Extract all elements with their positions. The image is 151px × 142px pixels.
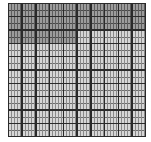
grid-cell-shaded — [37, 4, 49, 16]
grid-cell-shaded — [9, 17, 21, 29]
grid-cell — [92, 84, 104, 96]
grid-cell — [133, 124, 145, 136]
grid-cell — [23, 97, 35, 109]
grid-cell — [105, 97, 117, 109]
grid-cell-shaded — [9, 31, 21, 43]
grid-cell-shaded — [64, 4, 76, 16]
grid-cell — [50, 97, 62, 109]
grid-cell — [119, 111, 131, 123]
grid-cell-shaded — [119, 17, 131, 29]
hundred-grid — [8, 3, 146, 137]
grid-cell-shaded — [133, 17, 145, 29]
grid-cell — [133, 111, 145, 123]
grid-cell — [119, 71, 131, 83]
grid-cell-shaded — [92, 4, 104, 16]
grid-cell — [50, 71, 62, 83]
grid-cell — [78, 111, 90, 123]
grid-cell-shaded — [133, 4, 145, 16]
grid-cell-shaded — [50, 31, 62, 43]
grid-cell — [9, 124, 21, 136]
grid-cell — [64, 97, 76, 109]
grid-cell — [105, 124, 117, 136]
grid-cell-shaded — [105, 17, 117, 29]
grid-cell — [23, 111, 35, 123]
grid-cell — [92, 97, 104, 109]
grid-cell — [50, 57, 62, 69]
grid-cell-shaded — [37, 17, 49, 29]
grid-cell — [64, 44, 76, 56]
grid-cell — [50, 44, 62, 56]
grid-cell-shaded — [64, 31, 76, 43]
grid-cell-shaded — [78, 17, 90, 29]
grid-cell-shaded — [23, 4, 35, 16]
grid-cell — [64, 71, 76, 83]
grid-cell — [105, 44, 117, 56]
grid-cell-shaded — [50, 17, 62, 29]
grid-cell — [50, 84, 62, 96]
grid-cell — [105, 31, 117, 43]
grid-cell — [64, 57, 76, 69]
grid-cell — [64, 84, 76, 96]
grid-cell — [50, 111, 62, 123]
grid-cell — [133, 44, 145, 56]
grid-cell — [119, 124, 131, 136]
grid-cell-shaded — [105, 4, 117, 16]
grid-cell — [23, 84, 35, 96]
grid-cell — [37, 124, 49, 136]
grid-cell — [9, 97, 21, 109]
grid-cell — [37, 97, 49, 109]
grid-cell — [92, 124, 104, 136]
grid-cell-shaded — [64, 17, 76, 29]
grid-cell — [133, 84, 145, 96]
grid-cell — [78, 57, 90, 69]
grid-cell-shaded — [23, 17, 35, 29]
grid-cell — [37, 57, 49, 69]
grid-cell-shaded — [78, 4, 90, 16]
grid-cell-shaded — [50, 4, 62, 16]
grid-cell-shaded — [37, 31, 49, 43]
grid-cell — [23, 57, 35, 69]
grid-cell — [50, 124, 62, 136]
grid-cell — [92, 71, 104, 83]
grid-cell — [78, 124, 90, 136]
grid-cell — [92, 111, 104, 123]
grid-cell — [105, 57, 117, 69]
grid-cell — [78, 44, 90, 56]
grid-cell — [37, 44, 49, 56]
grid-cell — [105, 71, 117, 83]
grid-cell-shaded — [9, 4, 21, 16]
grid-cell — [133, 97, 145, 109]
grid-cell — [23, 44, 35, 56]
grid-cell — [92, 57, 104, 69]
grid-cell — [92, 31, 104, 43]
grid-cell-shaded — [23, 31, 35, 43]
grid-cell — [9, 111, 21, 123]
grid-cell — [37, 71, 49, 83]
grid-cell — [119, 31, 131, 43]
grid-cell — [105, 111, 117, 123]
grid-cell — [78, 84, 90, 96]
grid-cell — [23, 124, 35, 136]
grid-cell-shaded — [119, 4, 131, 16]
grid-cell — [105, 84, 117, 96]
grid-cell — [9, 44, 21, 56]
grid-cell — [133, 31, 145, 43]
grid-cell — [9, 57, 21, 69]
grid-cell — [9, 84, 21, 96]
grid-cell — [119, 57, 131, 69]
grid-cell — [64, 111, 76, 123]
grid-cell — [9, 71, 21, 83]
grid-cell — [119, 97, 131, 109]
grid-cell — [133, 71, 145, 83]
grid-cell — [119, 84, 131, 96]
grid-cell — [78, 31, 90, 43]
grid-cell — [37, 111, 49, 123]
grid-cell — [23, 71, 35, 83]
grid-cell — [78, 71, 90, 83]
grid-cell — [119, 44, 131, 56]
grid-cell — [133, 57, 145, 69]
grid-cell-shaded — [92, 17, 104, 29]
grid-cell — [78, 97, 90, 109]
grid-cell — [37, 84, 49, 96]
grid-cell — [64, 124, 76, 136]
